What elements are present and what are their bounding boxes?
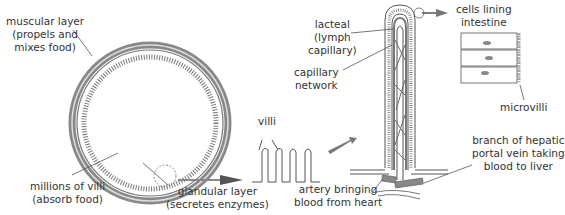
arrow-to-villus [328, 137, 357, 154]
cell-3 [461, 67, 517, 83]
label-hepatic-vein: branch of hepatic portal vein taking blo… [472, 134, 565, 173]
villi-row [252, 140, 320, 182]
label-glandular-layer: glandular layer (secretes enzymes) [166, 185, 269, 211]
glandular-layer-ring [77, 50, 223, 196]
label-capillary-network: capillary network [294, 66, 339, 92]
intestine-cross-section [72, 45, 228, 201]
muscular-layer-ring [72, 45, 228, 201]
label-villi: villi [258, 115, 276, 128]
label-millions-of-villi: millions of villi (absorb food) [30, 180, 105, 206]
label-artery: artery bringing blood from heart [294, 183, 382, 209]
label-cells-lining: cells lining intestine [456, 3, 512, 29]
cell-1 [461, 33, 517, 49]
label-lacteal: lacteal (lymph capillary) [308, 18, 357, 57]
label-muscular-layer: muscular layer (propels and mixes food) [6, 15, 84, 54]
villus-detail [350, 5, 448, 199]
leader-lines [72, 29, 472, 194]
label-microvilli: microvilli [500, 101, 547, 114]
arrow-to-cells [422, 9, 448, 17]
cells-lining [461, 33, 524, 100]
